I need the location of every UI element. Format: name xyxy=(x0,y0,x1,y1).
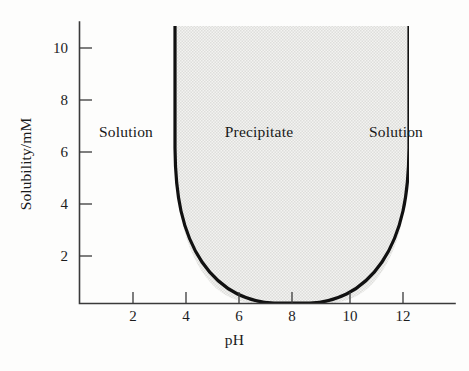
x-tick-label-8: 8 xyxy=(288,309,296,324)
annotation-solution-right: Solution xyxy=(369,123,423,141)
y-axis-title: Solubility/mM xyxy=(17,104,35,224)
y-tick-label-10: 10 xyxy=(38,41,68,56)
y-tick-label-4: 4 xyxy=(38,197,68,212)
x-tick-label-4: 4 xyxy=(182,309,190,324)
precipitate-region xyxy=(175,26,425,304)
y-tick-label-6: 6 xyxy=(38,145,68,160)
annotation-precipitate: Precipitate xyxy=(225,123,293,141)
y-tick-label-8: 8 xyxy=(38,93,68,108)
x-tick-label-10: 10 xyxy=(343,309,358,324)
x-axis-title: pH xyxy=(0,331,469,349)
x-tick-label-6: 6 xyxy=(235,309,243,324)
annotation-solution-left: Solution xyxy=(99,123,153,141)
x-tick-label-2: 2 xyxy=(129,309,137,324)
solubility-ph-chart: Solubility/mM 10 8 6 4 2 2 4 6 8 10 12 p… xyxy=(0,0,469,371)
y-axis-ticks xyxy=(80,48,93,256)
x-tick-label-12: 12 xyxy=(396,309,411,324)
y-tick-label-2: 2 xyxy=(38,249,68,264)
